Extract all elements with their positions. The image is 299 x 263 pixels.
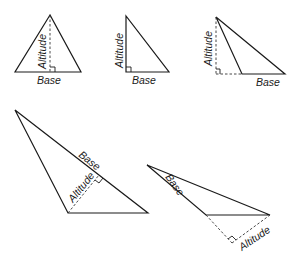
oblique-triangle-extended-base: Base Altitude [147,165,272,253]
altitude-label: Altitude [202,31,214,67]
altitude-label: Altitude [113,33,125,69]
base-label: Base [256,76,280,88]
acute-triangle: Altitude Base [15,15,81,86]
oblique-triangle-long-base: Base Altitude [15,110,148,213]
base-label: Base [37,74,61,86]
triangle-altitude-diagram: Altitude Base Altitude Base Altitude Bas… [0,0,299,263]
right-triangle: Altitude Base [113,16,169,86]
base-label: Base [163,171,187,198]
altitude-label: Altitude [36,34,48,70]
base-label: Base [132,74,156,86]
altitude-label: Altitude [236,223,273,253]
altitude-label: Altitude [65,169,97,205]
obtuse-triangle: Altitude Base [202,17,285,88]
